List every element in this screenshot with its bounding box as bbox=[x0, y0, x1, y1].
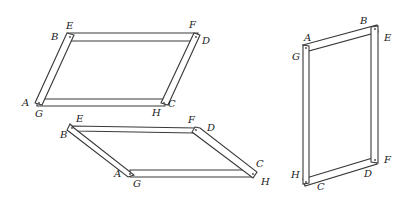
frame-1-pin-hc bbox=[163, 102, 165, 104]
frame-2: E B F D A G C H bbox=[59, 113, 270, 189]
frame-1-label-g: G bbox=[35, 108, 43, 119]
frame-3: A B E G H C D F bbox=[290, 15, 392, 192]
frame-2-label-d: D bbox=[206, 122, 215, 133]
frame-1-bar-gh bbox=[37, 99, 165, 106]
frame-2-bar-ef bbox=[72, 126, 196, 133]
frame-2-label-h: H bbox=[260, 176, 270, 187]
frame-2-label-f: F bbox=[187, 114, 196, 125]
frame-2-label-c: C bbox=[256, 158, 264, 169]
frame-3-label-f: F bbox=[383, 154, 392, 165]
frame-1-bar-ef bbox=[68, 33, 198, 41]
frame-2-pin-ag bbox=[129, 173, 131, 175]
frame-2-pin-hc bbox=[252, 173, 254, 175]
frame-3-bar-top bbox=[303, 25, 378, 52]
frame-3-pin-df bbox=[374, 159, 376, 161]
frame-1-label-h: H bbox=[151, 107, 161, 118]
frame-1-pin-ag bbox=[38, 102, 40, 104]
frame-3-bar-left bbox=[303, 45, 309, 184]
frame-1-label-b: B bbox=[50, 31, 58, 42]
frame-3-pin-hc bbox=[305, 181, 307, 183]
frame-1-label-a: A bbox=[21, 97, 29, 108]
frame-3-label-h: H bbox=[290, 169, 300, 180]
frame-3-label-e: E bbox=[383, 32, 392, 43]
frame-1-label-e: E bbox=[65, 20, 74, 31]
frame-1-label-f: F bbox=[188, 19, 197, 30]
frame-3-label-a: A bbox=[303, 32, 311, 43]
frame-1-pin-be bbox=[69, 36, 71, 38]
frame-2-pin-be bbox=[71, 127, 73, 129]
hinged-frames-diagram: E B F D A G H C E B F D A G C H bbox=[0, 0, 408, 198]
frame-3-pin-be bbox=[374, 28, 376, 30]
frame-1-bar-dc bbox=[161, 33, 200, 105]
frame-3-label-g: G bbox=[292, 51, 300, 62]
frame-2-label-b: B bbox=[59, 129, 67, 140]
frame-2-label-g: G bbox=[133, 178, 141, 189]
frame-1-bar-ba bbox=[35, 33, 74, 105]
frame-1-label-d: D bbox=[201, 35, 210, 46]
frame-3-label-b: B bbox=[359, 15, 367, 26]
frame-1-pin-fd bbox=[195, 36, 197, 38]
frame-1: E B F D A G H C bbox=[21, 19, 210, 119]
frame-2-pin-fd bbox=[195, 129, 197, 131]
frame-1-label-c: C bbox=[168, 98, 176, 109]
frame-2-label-e: E bbox=[75, 113, 84, 124]
frame-3-label-c: C bbox=[317, 181, 325, 192]
frame-3-label-d: D bbox=[363, 168, 372, 179]
frame-3-bar-right bbox=[371, 26, 378, 163]
frame-3-pin-ag bbox=[305, 47, 307, 49]
frame-2-bar-gh bbox=[130, 170, 253, 177]
frame-2-label-a: A bbox=[113, 168, 121, 179]
